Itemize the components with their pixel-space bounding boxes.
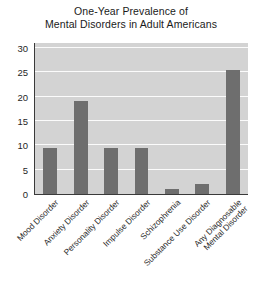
chart-title-line-1: One-Year Prevalence of bbox=[0, 5, 262, 18]
gridline bbox=[35, 144, 248, 145]
chart-title: One-Year Prevalence of Mental Disorders … bbox=[0, 5, 262, 31]
x-axis-tick-label: Personality Disorder bbox=[62, 198, 121, 257]
gridline bbox=[35, 96, 248, 97]
y-axis-tick-label: 25 bbox=[2, 67, 28, 78]
chart-title-line-2: Mental Disorders in Adult Americans bbox=[0, 18, 262, 31]
y-axis-line bbox=[34, 43, 35, 195]
gridline bbox=[35, 71, 248, 72]
y-axis-tick-label: 10 bbox=[2, 140, 28, 151]
plot-area bbox=[35, 43, 248, 194]
bar bbox=[104, 148, 118, 194]
bar bbox=[43, 148, 57, 194]
gridline bbox=[35, 120, 248, 121]
x-axis-tick-label-line: Personality Disorder bbox=[62, 198, 121, 257]
bar bbox=[135, 148, 149, 194]
y-axis-tick-label: 30 bbox=[2, 42, 28, 53]
x-axis-line bbox=[34, 194, 248, 195]
y-axis-tick-label: 0 bbox=[2, 189, 28, 200]
y-axis-tick-label: 5 bbox=[2, 164, 28, 175]
bar bbox=[195, 184, 209, 194]
bar bbox=[226, 70, 240, 194]
y-axis-tick-label: 15 bbox=[2, 115, 28, 126]
bar-chart: One-Year Prevalence of Mental Disorders … bbox=[0, 0, 262, 281]
bar bbox=[74, 101, 88, 194]
y-axis-tick-label: 20 bbox=[2, 91, 28, 102]
gridline bbox=[35, 47, 248, 48]
